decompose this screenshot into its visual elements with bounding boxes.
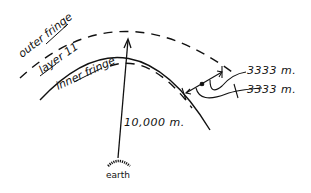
- inner-thickness-label: 3333 m.: [247, 83, 296, 96]
- radius-label: 10,000 m.: [124, 116, 185, 129]
- layer-diagram: outer fringe layer 11 inner fringe 3333 …: [0, 0, 311, 193]
- outer-thickness-label: 3333 m.: [247, 64, 296, 77]
- earth-icon: [108, 161, 130, 166]
- diagram-canvas: outer fringe layer 11 inner fringe 3333 …: [0, 0, 311, 193]
- earth-label: earth: [106, 170, 130, 180]
